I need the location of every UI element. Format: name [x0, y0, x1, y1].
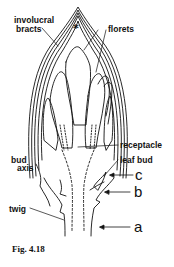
label-leaf-bud: leaf bud [120, 156, 153, 165]
inflorescence-diagram: * involucral bracts florets receptacle l… [0, 0, 174, 267]
florets [43, 47, 113, 150]
receptacle-stem [36, 150, 114, 236]
apex-marker: * [73, 22, 79, 35]
label-twig: twig [9, 205, 26, 214]
label-axis: axis [17, 164, 34, 173]
arrow-label-c: c [135, 167, 143, 182]
arrow-label-a: a [134, 219, 142, 234]
capitulum-section-drawing [0, 0, 174, 267]
label-florets: florets [108, 25, 134, 34]
arrow-label-b: b [134, 184, 142, 199]
arrows [100, 173, 133, 229]
label-receptacle: receptacle [120, 141, 162, 150]
figure-caption: Fig. 4.18 [12, 244, 45, 254]
label-bracts: bracts [16, 25, 42, 34]
